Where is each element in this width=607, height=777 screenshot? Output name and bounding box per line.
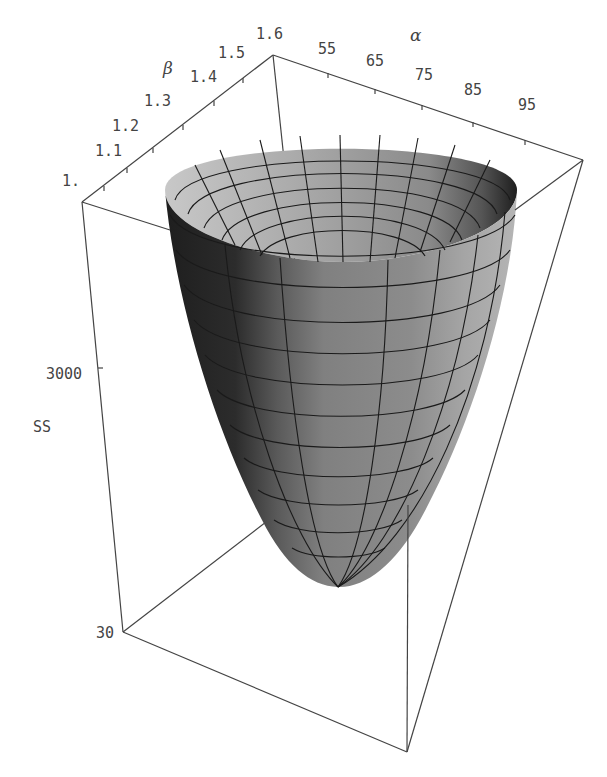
beta-tick: 1.4 <box>190 68 217 86</box>
beta-tick: 1. <box>62 172 80 190</box>
alpha-axis: α 55 65 75 85 95 <box>318 25 536 114</box>
alpha-tick: 75 <box>415 66 433 84</box>
alpha-tick: 85 <box>464 81 482 99</box>
alpha-tick: 55 <box>318 40 336 58</box>
alpha-tick: 95 <box>518 96 536 114</box>
beta-tick: 1.3 <box>144 92 171 110</box>
beta-tick: 1.1 <box>95 142 122 160</box>
ss-axis-title: SS <box>33 418 51 436</box>
beta-axis-title: β <box>162 58 173 78</box>
ss-tick: 3000 <box>46 365 82 383</box>
beta-tick: 1.2 <box>112 117 139 135</box>
surface-plot: β 1. 1.1 1.2 1.3 1.4 1.5 1.6 α 55 65 75 … <box>0 0 607 777</box>
alpha-tick: 65 <box>366 52 384 70</box>
beta-tick: 1.5 <box>218 44 245 62</box>
alpha-axis-title: α <box>410 25 422 45</box>
beta-tick: 1.6 <box>256 25 283 43</box>
ss-tick: 30 <box>96 624 114 642</box>
